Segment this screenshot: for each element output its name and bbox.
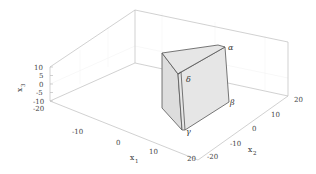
- x1-tick-neg20: -20: [33, 105, 44, 113]
- x1-axis-label: x 1: [130, 153, 139, 164]
- x2-tick-20: 20: [294, 96, 303, 104]
- z-tick-10: 10: [34, 64, 43, 72]
- x2-tick-neg20: -20: [207, 153, 218, 161]
- polytope: [162, 45, 229, 130]
- z-tick-0: 0: [39, 81, 43, 89]
- x2-tick-10: 10: [271, 111, 280, 119]
- x3-axis-label: x 3: [15, 83, 26, 92]
- 3d-plot: 10 5 0 -5 -10 -20 -10 0 10 20 -20 -10 0 …: [0, 0, 316, 174]
- x2-tick-0: 0: [252, 125, 256, 133]
- x2-axis-label: x 2: [248, 145, 257, 156]
- svg-text:2: 2: [253, 150, 257, 156]
- x1-tick-0: 0: [116, 139, 120, 147]
- vertex-label-alpha: α: [228, 43, 234, 52]
- vertex-label-delta: δ: [186, 75, 191, 84]
- z-axis-ticks: [50, 67, 53, 101]
- z-tick-neg5: -5: [36, 89, 43, 97]
- vertex-label-beta: β: [229, 98, 235, 107]
- vertex-label-gamma: γ: [186, 127, 191, 136]
- svg-text:1: 1: [135, 158, 139, 164]
- x2-tick-neg10: -10: [230, 140, 241, 148]
- x1-tick-10: 10: [149, 148, 158, 156]
- z-tick-5: 5: [39, 72, 43, 80]
- x1-tick-neg10: -10: [72, 128, 83, 136]
- x1-tick-20: 20: [187, 155, 196, 163]
- svg-text:3: 3: [20, 83, 26, 87]
